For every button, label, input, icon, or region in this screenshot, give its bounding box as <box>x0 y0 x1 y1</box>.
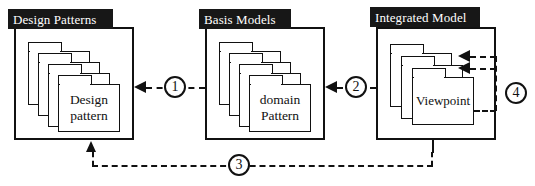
connector-1-number: 1 <box>164 76 186 98</box>
card-seam-basis-2 <box>231 61 261 64</box>
connector-1-arrowhead <box>134 81 146 93</box>
card-label-domain-pattern: domain Pattern <box>247 92 313 124</box>
card-seam-design-4 <box>60 83 90 86</box>
title-plate-design-patterns: Design Patterns <box>8 9 113 29</box>
card-seam-basis-1 <box>221 50 251 53</box>
card-seam-design-2 <box>40 61 70 64</box>
card-label-design-pattern: Design pattern <box>58 92 120 124</box>
connector-4-number: 4 <box>505 82 527 104</box>
card-seam-basis-4 <box>251 83 281 86</box>
diagram-canvas: Design pattern Design Patterns domain Pa… <box>0 0 535 186</box>
connector-2-arrowhead <box>325 81 337 93</box>
card-label-viewpoint: Viewpoint <box>410 93 476 109</box>
title-plate-basis-models: Basis Models <box>199 9 291 29</box>
connector-3-riser-left <box>92 152 94 166</box>
connector-4-arrowhead-lower <box>458 62 470 74</box>
title-plate-integrated-model: Integrated Model <box>370 7 480 27</box>
card-seam-integrated-2 <box>403 64 433 67</box>
card-seam-basis-3 <box>241 72 271 75</box>
card-seam-design-1 <box>30 50 60 53</box>
connector-3-arrowhead <box>86 141 96 152</box>
card-seam-integrated-1 <box>392 52 422 55</box>
connector-2-number: 2 <box>345 76 367 98</box>
connector-4-mid-branch <box>470 68 496 70</box>
connector-3-corner-right <box>431 152 433 166</box>
card-seam-design-3 <box>50 72 80 75</box>
connector-3-line <box>92 165 433 167</box>
connector-4-top-branch <box>470 56 496 58</box>
connector-4-bottom-branch <box>474 110 496 112</box>
connector-4-spine <box>495 56 497 111</box>
connector-3-number: 3 <box>228 154 250 176</box>
card-seam-integrated-3 <box>414 76 444 79</box>
connector-4-arrowhead-upper <box>458 50 470 62</box>
